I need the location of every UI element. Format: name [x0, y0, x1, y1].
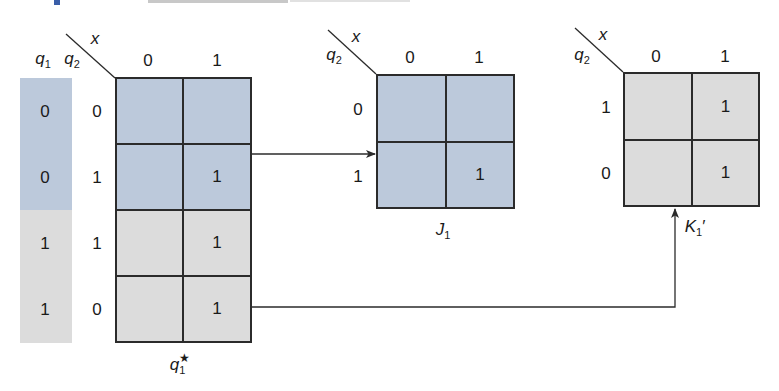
kmap-cell: 1 — [183, 144, 251, 210]
k-map-col-header: 1 — [720, 48, 729, 65]
main-map-col-header: 1 — [212, 52, 221, 69]
kmap-cell: 1 — [183, 276, 251, 342]
j-map-row-var: q2 — [326, 46, 342, 66]
k-map-col-header: 0 — [651, 48, 660, 65]
kmap-cell — [624, 73, 692, 140]
k-map-row-header: 0 — [601, 165, 610, 182]
k-kmap-grid: 1 1 — [623, 72, 760, 207]
kmap-cell: 1 — [446, 142, 514, 208]
j-map-col-header: 0 — [405, 49, 414, 66]
kmap-cell: 1 — [183, 210, 251, 276]
kmap-cell: 1 — [692, 73, 759, 140]
q1-strip-gray — [20, 210, 72, 343]
arrow-to-k-map — [251, 209, 675, 307]
main-map-row-header: 0 — [92, 103, 101, 120]
j-map-row-header: 0 — [353, 101, 362, 118]
kmap-cell — [116, 144, 183, 210]
kmap-cell — [116, 78, 183, 144]
q1-value: 1 — [40, 301, 49, 318]
main-kmap-grid: 1 1 1 — [115, 77, 252, 343]
q1-value: 0 — [40, 169, 49, 186]
j-map-col-header: 1 — [474, 49, 483, 66]
main-map-row-header: 1 — [92, 169, 101, 186]
kmap-cell — [377, 142, 446, 208]
kmap-cell — [624, 140, 692, 206]
j-map-row-header: 1 — [353, 168, 362, 185]
q1-strip-blue — [20, 78, 72, 210]
main-map-col-header: 0 — [143, 52, 152, 69]
j-kmap-grid: 1 — [376, 74, 515, 209]
kmap-cell — [116, 210, 183, 276]
k-map-row-header: 1 — [601, 99, 610, 116]
kmap-cell — [183, 78, 251, 144]
kmap-cell — [446, 75, 514, 142]
j-map-col-var: x — [352, 28, 361, 45]
main-map-row-var: q2 — [64, 50, 80, 70]
kmap-cell: 1 — [692, 140, 759, 206]
k-map-label: K1′ — [685, 218, 706, 238]
k-map-col-var: x — [599, 26, 608, 43]
main-map-row-header: 0 — [92, 301, 101, 318]
main-map-col-var: x — [91, 30, 100, 47]
q1-value: 1 — [40, 235, 49, 252]
main-map-row-header: 1 — [92, 235, 101, 252]
q1-value: 0 — [40, 103, 49, 120]
k-map-row-var: q2 — [574, 46, 590, 66]
kmap-cell — [377, 75, 446, 142]
q1-column-header: q1 — [35, 50, 51, 70]
j-map-label: J1 — [436, 221, 451, 241]
main-map-label: q1★ — [170, 352, 191, 376]
kmap-cell — [116, 276, 183, 342]
